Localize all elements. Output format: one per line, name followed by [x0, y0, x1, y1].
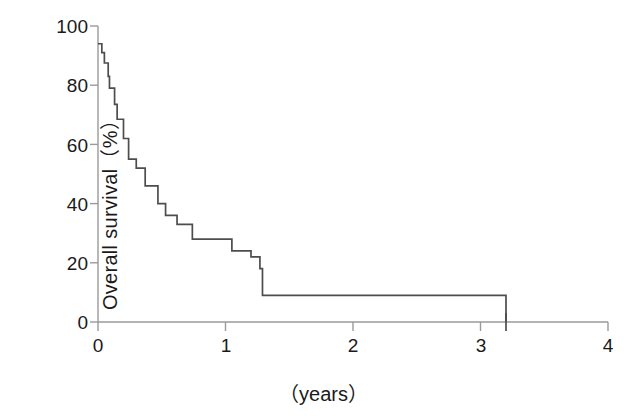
y-tick-label-60: 60 [42, 136, 88, 155]
survival-step-line [98, 44, 506, 322]
x-tick-label-2: 2 [348, 336, 359, 355]
axis-lines [98, 26, 608, 322]
x-tick-label-1: 1 [221, 336, 232, 355]
y-tick-label-100: 100 [42, 17, 88, 36]
x-axis-title: （years） [0, 378, 635, 407]
y-tick-label-0: 0 [42, 313, 88, 332]
x-axis-ticks [98, 322, 608, 331]
y-tick-label-20: 20 [42, 254, 88, 273]
y-tick-label-80: 80 [42, 76, 88, 95]
x-axis-title-text: （years） [279, 378, 368, 407]
x-tick-label-4: 4 [603, 336, 614, 355]
x-tick-label-0: 0 [93, 336, 104, 355]
x-tick-label-3: 3 [476, 336, 487, 355]
survival-curve-figure: 0 20 40 60 80 100 0 1 2 3 4 Overall surv… [0, 0, 635, 419]
y-axis-title-text: Overall survival（%） [94, 109, 123, 309]
y-tick-label-40: 40 [42, 195, 88, 214]
y-axis-title: Overall survival（%） [94, 109, 123, 309]
